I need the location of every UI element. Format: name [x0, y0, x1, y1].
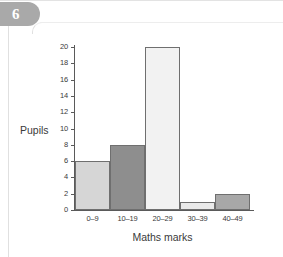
y-axis-tick-label: 0 [52, 206, 68, 214]
bar [145, 47, 180, 210]
y-axis-tick-label: 8 [52, 141, 68, 149]
x-axis-tick-label: 0–9 [75, 214, 110, 223]
x-axis-line [74, 210, 254, 211]
y-axis-title: Pupils [20, 124, 66, 136]
y-axis-tick-label: 12 [52, 108, 68, 116]
bar [180, 202, 215, 210]
y-axis-tick [71, 210, 75, 211]
bar [75, 161, 110, 210]
x-axis-tick-label: 20–29 [145, 214, 180, 223]
y-axis-tick-label: 14 [52, 92, 68, 100]
y-axis-tick-label: 20 [52, 43, 68, 51]
plot-area [75, 47, 250, 210]
y-axis-tick-label: 6 [52, 157, 68, 165]
y-axis-tick-label: 2 [52, 190, 68, 198]
x-axis-title: Maths marks [75, 231, 250, 243]
bar [110, 145, 145, 210]
x-axis-tick-label: 30–39 [180, 214, 215, 223]
x-axis-tick-label: 10–19 [110, 214, 145, 223]
bar-chart: 02468101214161820 0–910–1920–2930–3940–4… [0, 0, 283, 257]
x-axis-tick-label: 40–49 [215, 214, 250, 223]
y-axis-tick-label: 16 [52, 76, 68, 84]
bar [215, 194, 250, 210]
screenshot-root: 6 02468101214161820 0–910–1920–2930–3940… [0, 0, 283, 257]
y-axis-tick-label: 4 [52, 173, 68, 181]
y-axis-tick-label: 18 [52, 59, 68, 67]
